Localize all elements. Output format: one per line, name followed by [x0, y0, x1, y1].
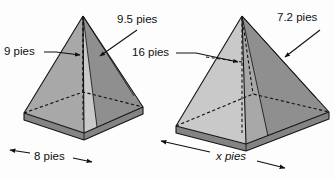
right-base-label: x pies [215, 150, 246, 162]
figure-canvas: 9 pies 9.5 pies 8 pies [0, 0, 334, 180]
left-base-dimension: 8 pies [10, 150, 92, 162]
left-height-label: 9 pies [4, 45, 35, 57]
right-apothem-label: 16 pies [132, 46, 169, 58]
right-slant-label: 7.2 pies [277, 11, 318, 23]
right-slant-leader-line [285, 30, 320, 57]
right-slant-callout: 7.2 pies [277, 11, 320, 57]
left-base-label: 8 pies [34, 150, 65, 162]
right-pyramid-face-left [176, 16, 246, 144]
left-slant-label: 9.5 pies [117, 13, 158, 25]
left-pyramid [24, 16, 143, 140]
right-pyramid [176, 16, 329, 151]
